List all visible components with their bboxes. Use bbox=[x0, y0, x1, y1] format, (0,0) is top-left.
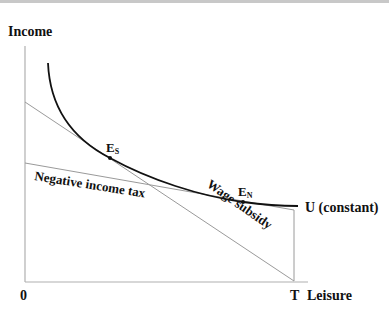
wage-subsidy-line bbox=[25, 102, 294, 281]
point-es-marker bbox=[108, 156, 112, 160]
origin-label: 0 bbox=[20, 288, 27, 303]
t-label: T bbox=[290, 288, 300, 303]
labor-leisure-diagram: Income 0 T Leisure ES EN U (constant) Ne… bbox=[0, 0, 389, 310]
negative-income-tax-label: Negative income tax bbox=[34, 168, 147, 200]
y-axis-label: Income bbox=[8, 24, 52, 39]
curve-label: U (constant) bbox=[305, 200, 379, 216]
point-es-label: ES bbox=[106, 140, 120, 156]
x-axis-label: Leisure bbox=[307, 288, 352, 303]
